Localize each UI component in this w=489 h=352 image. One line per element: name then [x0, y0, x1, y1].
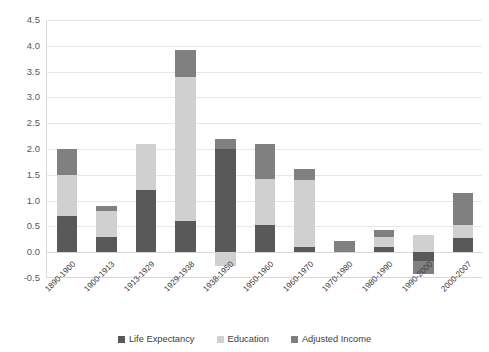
y-axis-tick-label: 0.5 — [0, 221, 40, 231]
stacked-bar-chart: 4.54.03.53.02.52.01.51.00.50.0-0.5 1890-… — [0, 0, 489, 352]
plot-area — [46, 20, 482, 278]
chart-legend: Life ExpectancyEducationAdjusted Income — [0, 332, 489, 348]
legend-item[interactable]: Education — [217, 335, 269, 344]
bar-segment[interactable] — [215, 149, 236, 252]
bar-segment[interactable] — [57, 149, 78, 175]
bar-segment[interactable] — [255, 144, 276, 179]
bar-group[interactable] — [374, 20, 395, 277]
bar-group[interactable] — [175, 20, 196, 277]
bar-segment[interactable] — [175, 77, 196, 221]
bar-group[interactable] — [334, 20, 355, 277]
bar-group[interactable] — [96, 20, 117, 277]
bar-segment[interactable] — [215, 139, 236, 149]
bar-group[interactable] — [215, 20, 236, 277]
legend-label: Education — [228, 335, 269, 344]
legend-swatch-icon — [217, 336, 224, 343]
bar-segment[interactable] — [96, 206, 117, 211]
bar-segment[interactable] — [255, 179, 276, 225]
bar-segment[interactable] — [57, 216, 78, 252]
legend-item[interactable]: Adjusted Income — [291, 335, 371, 344]
bar-group[interactable] — [255, 20, 276, 277]
legend-label: Life Expectancy — [129, 335, 195, 344]
legend-item[interactable]: Life Expectancy — [118, 335, 195, 344]
bar-segment[interactable] — [175, 221, 196, 252]
bar-segment[interactable] — [413, 252, 434, 261]
y-axis-tick-label: 2.0 — [0, 144, 40, 154]
bar-segment[interactable] — [96, 211, 117, 237]
legend-swatch-icon — [118, 336, 125, 343]
legend-swatch-icon — [291, 336, 298, 343]
bar-segment[interactable] — [334, 241, 355, 252]
bar-segment[interactable] — [453, 193, 474, 225]
bar-segment[interactable] — [294, 180, 315, 247]
bar-segment[interactable] — [57, 175, 78, 216]
y-axis-tick-label: 3.5 — [0, 67, 40, 77]
y-axis-tick-label: 2.5 — [0, 118, 40, 128]
bar-segment[interactable] — [96, 237, 117, 252]
bar-group[interactable] — [136, 20, 157, 277]
bar-segment[interactable] — [175, 50, 196, 77]
y-axis-tick-label: -0.5 — [0, 273, 40, 283]
bar-segment[interactable] — [136, 190, 157, 252]
bar-segment[interactable] — [453, 225, 474, 237]
y-axis-tick-label: 1.0 — [0, 196, 40, 206]
bar-group[interactable] — [413, 20, 434, 277]
legend-label: Adjusted Income — [302, 335, 371, 344]
bar-group[interactable] — [294, 20, 315, 277]
bar-segment[interactable] — [453, 238, 474, 252]
x-axis-tick-labels: 1890-19001900-19131913-19291929-19381938… — [46, 280, 482, 332]
bar-segment[interactable] — [374, 230, 395, 237]
bar-segment[interactable] — [255, 225, 276, 252]
bar-segment[interactable] — [294, 169, 315, 180]
bars-layer — [47, 20, 482, 277]
bar-segment[interactable] — [413, 235, 434, 252]
bar-segment[interactable] — [374, 237, 395, 247]
bar-group[interactable] — [57, 20, 78, 277]
y-axis-tick-label: 0.0 — [0, 247, 40, 257]
bar-group[interactable] — [453, 20, 474, 277]
y-axis-tick-label: 4.0 — [0, 41, 40, 51]
y-axis-tick-label: 3.0 — [0, 92, 40, 102]
y-axis-tick-label: 4.5 — [0, 15, 40, 25]
y-axis-tick-label: 1.5 — [0, 170, 40, 180]
bar-segment[interactable] — [374, 247, 395, 253]
bar-segment[interactable] — [294, 247, 315, 253]
bar-segment[interactable] — [136, 144, 157, 190]
